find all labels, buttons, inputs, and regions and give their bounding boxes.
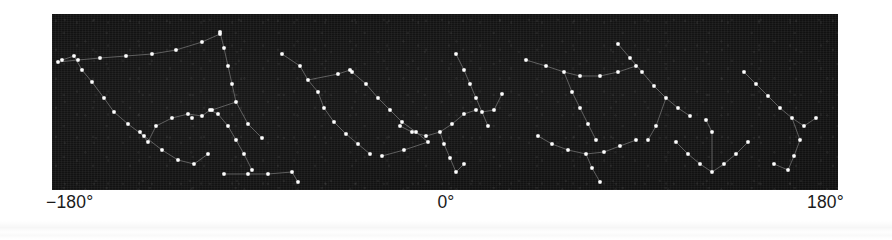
star-point [332,120,335,123]
star-point [170,116,173,119]
constellation-link [390,110,402,122]
axis-tick-label-right: 180° [807,194,844,212]
constellation-link [600,72,618,76]
constellation-link [456,54,464,70]
star-point [296,180,299,183]
constellation-link [450,158,456,172]
star-point [72,54,75,57]
constellation-link [580,108,588,124]
star-point [710,130,713,133]
star-point [402,148,405,151]
star-point [126,122,129,125]
star-point [598,180,601,183]
star-point [400,120,403,123]
constellation-link [706,120,712,132]
star-point [688,114,691,117]
star-point [398,124,401,127]
constellation-link [92,82,104,98]
constellation-link [440,124,452,132]
constellation-link [678,108,690,116]
constellation-link [346,134,358,144]
constellation-link [400,126,412,132]
star-point [652,84,655,87]
star-point [618,144,621,147]
star-point [216,112,219,115]
star-point [772,162,775,165]
constellation-link [426,132,440,136]
constellation-link [156,118,172,126]
star-point [798,138,801,141]
star-point [454,170,457,173]
constellation-link [792,118,800,140]
constellation-link [482,110,494,112]
star-point [230,82,233,85]
constellation-link [188,114,202,116]
star-point [468,82,471,85]
constellation-link [568,150,586,154]
star-point [562,70,565,73]
star-point [56,60,59,63]
star-point [344,132,347,135]
star-point [448,156,451,159]
constellation-link [586,152,604,154]
star-point [766,94,769,97]
constellation-link [248,124,262,138]
star-point [218,30,221,33]
star-point [138,130,141,133]
constellation-link [618,44,630,58]
star-point [492,108,495,111]
constellation-link [232,84,236,102]
star-point [664,96,667,99]
constellation-link [774,164,788,170]
star-point [150,52,153,55]
constellation-link [212,102,236,110]
star-point [536,134,539,137]
star-point [628,56,631,59]
star-point [426,140,429,143]
constellation-link [126,54,152,56]
constellation-link [464,110,476,114]
constellation-link [282,54,300,66]
star-point [778,106,781,109]
constellation-link [224,48,228,66]
constellation-link [572,92,580,108]
star-point [234,138,237,141]
constellation-link [218,114,228,126]
star-point [454,52,457,55]
star-point [792,154,795,157]
star-point [368,152,371,155]
star-point [474,108,477,111]
constellation-link [176,42,202,50]
constellation-link [756,84,768,96]
constellation-link [162,150,178,160]
constellation-link [788,156,794,170]
constellation-link [228,66,232,84]
constellation-link [236,102,248,124]
star-point [200,114,203,117]
constellation-link [656,98,666,126]
constellation-link [228,126,236,140]
axis-tick-label-center: 0° [0,194,892,212]
constellation-link [78,58,100,60]
star-point [734,152,737,155]
star-point [98,56,101,59]
star-point [306,78,309,81]
star-point [646,138,649,141]
star-point [410,130,413,133]
constellation-link [642,72,654,86]
constellation-link [780,108,792,118]
constellation-link [464,70,470,84]
constellation-link [268,172,292,174]
constellation-link [526,60,546,66]
star-point [322,106,325,109]
star-point [206,152,209,155]
star-point [376,96,379,99]
star-point [786,168,789,171]
constellation-link [712,164,724,172]
star-point [710,170,713,173]
star-point [208,108,211,111]
star-point [222,172,225,175]
constellation-link [194,154,208,164]
star-point [160,148,163,151]
constellation-link [318,92,324,108]
